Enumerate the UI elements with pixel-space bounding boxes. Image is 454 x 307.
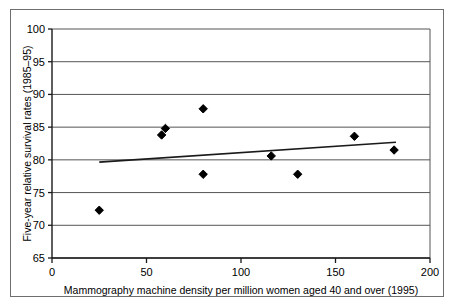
data-point-7 [350,132,358,140]
y-tick-label-80: 80 [33,154,45,166]
figure-container: 65707580859095100 050100150200 Mammograp… [0,0,454,307]
y-tick-label-75: 75 [33,187,45,199]
y-tick-label-100: 100 [27,23,45,35]
y-tick-label-90: 90 [33,88,45,100]
y-tick-label-85: 85 [33,121,45,133]
x-axis-group: 050100150200 [49,258,439,278]
x-tick-label-150: 150 [326,266,344,278]
data-point-8 [390,146,398,154]
x-tick-label-0: 0 [49,266,55,278]
data-point-3 [199,105,207,113]
x-tick-label-50: 50 [140,266,152,278]
data-point-5 [267,152,275,160]
y-tick-label-70: 70 [33,219,45,231]
trendline [99,142,396,162]
data-point-6 [294,170,302,178]
x-tick-label-200: 200 [421,266,439,278]
y-tick-label-65: 65 [33,252,45,264]
data-point-4 [199,170,207,178]
y-tick-label-95: 95 [33,56,45,68]
scatter-chart: 65707580859095100 050100150200 Mammograp… [0,0,454,307]
trendline-group [99,142,396,162]
x-tick-label-100: 100 [232,266,250,278]
y-axis-title: Five-year relative survival rates (1985–… [21,45,33,241]
data-point-0 [95,206,103,214]
x-axis-title: Mammography machine density per million … [64,284,418,296]
